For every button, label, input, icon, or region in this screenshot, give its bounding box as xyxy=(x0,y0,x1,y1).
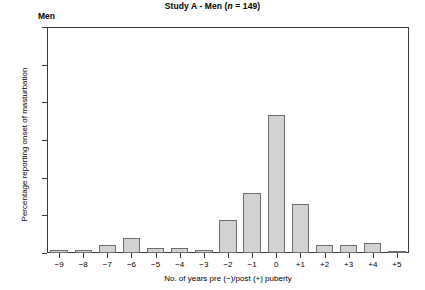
bars-layer xyxy=(47,27,409,253)
bar xyxy=(364,243,381,253)
chart-title-suffix: = 149) xyxy=(233,1,260,11)
x-axis-tick-label: −8 xyxy=(79,260,88,269)
x-axis-tick-mark xyxy=(300,253,301,258)
chart-figure: Study A - Men (n = 149) Men 010203040506… xyxy=(0,0,425,290)
x-axis-tick-label: −4 xyxy=(175,260,184,269)
x-axis-tick-label: −9 xyxy=(55,260,64,269)
x-axis-tick-label: 0 xyxy=(274,260,278,269)
bar xyxy=(268,115,285,253)
x-axis-tick-label: −2 xyxy=(223,260,232,269)
x-axis-tick-label: +3 xyxy=(344,260,353,269)
x-axis-title: No. of years pre (−)/post (+) puberty xyxy=(47,274,409,283)
y-axis-tick-mark xyxy=(42,102,47,103)
x-axis-tick-mark xyxy=(252,253,253,258)
x-axis-tick-mark xyxy=(373,253,374,258)
x-axis-tick-mark xyxy=(83,253,84,258)
bar xyxy=(243,193,260,253)
x-axis-tick-label: −6 xyxy=(127,260,136,269)
bar xyxy=(99,245,116,253)
x-axis-tick-label: +5 xyxy=(392,260,401,269)
x-axis-tick-mark xyxy=(349,253,350,258)
x-axis-tick-mark xyxy=(156,253,157,258)
chart-title-prefix: Study A - Men ( xyxy=(165,1,228,11)
x-axis-tick-label: −5 xyxy=(151,260,160,269)
x-axis-tick-label: −1 xyxy=(248,260,257,269)
x-axis-tick-mark xyxy=(325,253,326,258)
chart-title: Study A - Men (n = 149) xyxy=(0,1,425,11)
x-axis-tick-label: +1 xyxy=(296,260,305,269)
x-axis-tick-label: +2 xyxy=(320,260,329,269)
bar xyxy=(340,245,357,253)
x-axis-tick-mark xyxy=(59,253,60,258)
x-axis-tick-mark xyxy=(204,253,205,258)
x-axis-tick-mark xyxy=(276,253,277,258)
x-axis-tick-label: +4 xyxy=(368,260,377,269)
bar xyxy=(123,238,140,253)
x-axis-tick-mark xyxy=(107,253,108,258)
y-axis-tick-mark xyxy=(42,215,47,216)
y-axis-tick-mark xyxy=(42,253,47,254)
x-axis-tick-mark xyxy=(180,253,181,258)
bar xyxy=(219,220,236,253)
y-axis-tick-mark xyxy=(42,27,47,28)
y-axis-tick-mark xyxy=(42,178,47,179)
x-axis-tick-mark xyxy=(228,253,229,258)
x-axis-tick-label: −7 xyxy=(103,260,112,269)
x-axis-tick-mark xyxy=(131,253,132,258)
y-axis-tick-mark xyxy=(42,140,47,141)
x-axis-tick-mark xyxy=(397,253,398,258)
x-axis-tick-label: −3 xyxy=(199,260,208,269)
y-axis-title: Percentage reporting onset of masturbati… xyxy=(20,45,29,245)
y-axis-tick-mark xyxy=(42,65,47,66)
bar xyxy=(292,204,309,253)
bar xyxy=(316,245,333,253)
